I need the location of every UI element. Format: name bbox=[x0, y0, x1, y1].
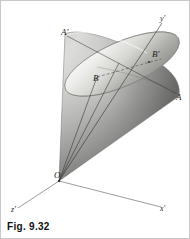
axis-line-z bbox=[18, 181, 59, 208]
point-label-b: B bbox=[93, 74, 99, 83]
point-label-o: O bbox=[54, 171, 61, 180]
figure-container: A' B' B A O y' z' x' Fig. 9.32 bbox=[0, 0, 190, 239]
point-label-b-prime: B' bbox=[152, 50, 159, 59]
figure-caption: Fig. 9.32 bbox=[7, 222, 50, 232]
axis-label-y: y' bbox=[160, 15, 165, 23]
axis-line-x bbox=[59, 181, 161, 207]
axis-label-z: z' bbox=[11, 206, 16, 214]
axis-label-x: x' bbox=[160, 205, 165, 213]
point-label-a: A bbox=[176, 93, 182, 102]
point-B-prime-dot bbox=[148, 61, 150, 63]
apex-point bbox=[58, 180, 60, 182]
point-label-a-prime: A' bbox=[61, 28, 68, 37]
